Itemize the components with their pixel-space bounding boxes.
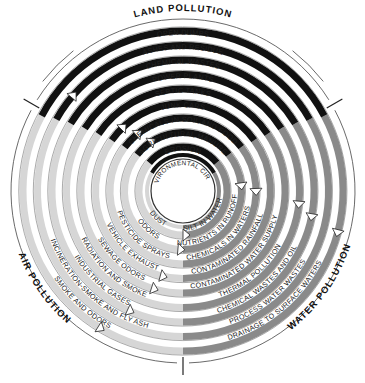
land-pollution-title: LAND POLLUTION — [132, 2, 233, 20]
environmental-pollution-circle-diagram: OPEN DUMPSASHES AND RESIDUECHEMICAL WAST… — [0, 0, 365, 383]
land-item-label: OPEN DUMPS — [156, 28, 209, 39]
flow-arrow-icon — [293, 201, 305, 208]
land-item-label: JUNK CARS — [160, 100, 206, 112]
land-item-label: CHEMICAL WASTES — [145, 57, 221, 71]
sector-divider-tick — [327, 99, 343, 108]
flow-arrow-icon — [235, 182, 247, 190]
sector-divider-tick — [24, 99, 40, 108]
